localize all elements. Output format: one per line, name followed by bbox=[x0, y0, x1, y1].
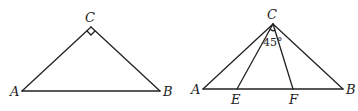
label-c: C bbox=[85, 10, 95, 25]
segment-ce bbox=[237, 24, 273, 89]
geometry-figure: C A B C 45° A B E F bbox=[0, 0, 358, 111]
label-a: A bbox=[9, 84, 19, 99]
angle-label: 45° bbox=[263, 36, 283, 49]
right-triangle: C 45° A B E F bbox=[190, 7, 356, 107]
label-b: B bbox=[162, 84, 173, 99]
label-a: A bbox=[190, 82, 200, 97]
right-angle-mark bbox=[87, 31, 95, 35]
label-c: C bbox=[267, 7, 277, 22]
segment-bc bbox=[91, 27, 160, 91]
label-e: E bbox=[230, 92, 241, 107]
label-b: B bbox=[345, 82, 356, 97]
left-triangle: C A B bbox=[9, 10, 173, 99]
segment-ac bbox=[203, 24, 273, 89]
segment-ac bbox=[22, 27, 91, 91]
label-f: F bbox=[288, 92, 299, 107]
